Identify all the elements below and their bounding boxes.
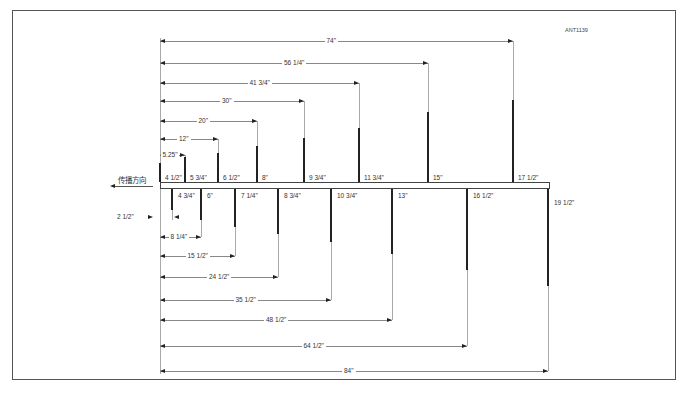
spacing-dimension-label: 12" — [177, 135, 191, 143]
offset-arrow-left-icon — [174, 215, 179, 219]
upper-element — [303, 138, 305, 182]
element-guide-line — [218, 139, 219, 153]
spacing-dimension-label: 41 3/4" — [248, 79, 272, 87]
offset-dimension-label: 2 1/2" — [115, 213, 136, 221]
dimension-arrow-left-icon — [160, 369, 165, 373]
upper-element-length-label: 17 1/2" — [516, 174, 540, 182]
element-guide-line — [278, 234, 279, 277]
dimension-arrow-left-icon — [160, 318, 165, 322]
lower-element-length-label: 19 1/2" — [552, 199, 576, 207]
lower-element — [234, 189, 236, 227]
upper-element-length-label: 9 3/4" — [307, 174, 328, 182]
spacing-dimension-label: 15 1/2" — [186, 252, 210, 260]
element-guide-line — [257, 121, 258, 146]
spacing-dimension-label: 84" — [342, 367, 356, 375]
upper-element-length-label: 5 3/4" — [188, 174, 209, 182]
upper-element — [358, 128, 360, 182]
lower-element-length-label: 13" — [396, 192, 410, 200]
upper-element-length-label: 8" — [260, 174, 270, 182]
dimension-arrow-left-icon — [160, 137, 165, 141]
element-guide-line — [185, 155, 186, 157]
element-guide-line — [392, 254, 393, 320]
propagation-direction-line — [113, 186, 153, 187]
spacing-dimension-label: 56 1/4" — [282, 59, 306, 67]
lower-element-length-label: 6" — [205, 192, 215, 200]
dimension-arrow-left-icon — [160, 235, 165, 239]
lower-element — [200, 189, 202, 220]
offset-arrow-right-icon — [148, 215, 153, 219]
spacing-dimension-label: 30" — [220, 97, 234, 105]
lower-element — [466, 189, 468, 270]
element-guide-line — [428, 63, 429, 112]
propagation-direction-label: 传播方向 — [118, 174, 146, 185]
upper-element — [512, 100, 514, 182]
lower-element-length-label: 4 3/4" — [176, 192, 197, 200]
element-guide-line — [467, 270, 468, 346]
element-guide-line — [304, 101, 305, 138]
origin-guide-line — [160, 38, 161, 374]
element-guide-line — [201, 220, 202, 237]
lower-element — [171, 189, 173, 210]
upper-element-length-label: 6 1/2" — [221, 174, 242, 182]
spacing-dimension-label: 8 1/4" — [169, 233, 190, 241]
dimension-arrow-left-icon — [160, 119, 165, 123]
dimension-arrow-left-icon — [160, 61, 165, 65]
spacing-dimension-label: 5.25" — [161, 151, 180, 159]
spacing-dimension-label: 48 1/2" — [264, 316, 288, 324]
top-guide-line — [513, 41, 514, 100]
upper-element — [217, 153, 219, 182]
lower-element-length-label: 7 1/4" — [239, 192, 260, 200]
dimension-arrow-left-icon — [160, 81, 165, 85]
element-guide-line — [548, 286, 549, 371]
spacing-dimension-label: 64 1/2" — [302, 342, 326, 350]
lower-element — [330, 189, 332, 242]
dimension-arrow-left-icon — [160, 39, 165, 43]
lower-element — [547, 189, 549, 286]
spacing-dimension-label: 35 1/2" — [234, 296, 258, 304]
propagation-arrow-icon — [110, 184, 115, 188]
element-guide-line — [235, 227, 236, 256]
offset-guide-line — [172, 210, 173, 220]
lower-element-length-label: 8 3/4" — [282, 192, 303, 200]
lower-element — [391, 189, 393, 254]
dimension-arrow-left-icon — [160, 254, 165, 258]
dimension-arrow-left-icon — [160, 99, 165, 103]
upper-element — [256, 146, 258, 182]
spacing-dimension-label: 24 1/2" — [207, 273, 231, 281]
lower-element-length-label: 10 3/4" — [335, 192, 359, 200]
antenna-boom — [160, 182, 550, 189]
dimension-arrow-left-icon — [160, 298, 165, 302]
spacing-dimension-label: 74" — [325, 37, 339, 45]
upper-element-length-label: 15" — [431, 174, 445, 182]
element-guide-line — [331, 242, 332, 300]
upper-element — [159, 163, 161, 182]
spacing-dimension-label: 20" — [197, 117, 211, 125]
dimension-arrow-left-icon — [160, 344, 165, 348]
figure-code: ANT1139 — [565, 27, 588, 33]
upper-element — [184, 157, 186, 182]
upper-element-length-label: 4 1/2" — [163, 174, 184, 182]
lower-element — [277, 189, 279, 234]
upper-element — [427, 112, 429, 182]
lower-element-length-label: 16 1/2" — [471, 192, 495, 200]
upper-element-length-label: 11 3/4" — [362, 174, 386, 182]
dimension-arrow-left-icon — [160, 275, 165, 279]
element-guide-line — [359, 83, 360, 128]
